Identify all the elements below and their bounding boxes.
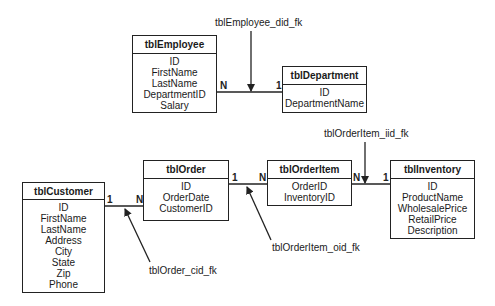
field: DepartmentName [283,98,366,109]
cardinality-emp-dept-1: 1 [276,80,282,91]
table-tblDepartment: tblDepartment ID DepartmentName [282,66,367,113]
field: ID [23,202,104,213]
field: LastName [133,78,216,89]
field: WholesalePrice [391,203,474,214]
field: CustomerID [144,203,228,214]
field: Zip [23,268,104,279]
field: ID [133,56,216,67]
field-list: ID FirstName LastName Address City State… [23,200,104,290]
field: Phone [23,279,104,290]
fk-label-orderitem-oid: tblOrderItem_oid_fk [272,242,360,253]
field-list: ID OrderDate CustomerID [144,179,228,214]
cardinality-cust-order-1: 1 [107,194,113,205]
table-tblOrderItem: tblOrderItem OrderID InventoryID [267,160,352,206]
field: Description [391,225,474,236]
table-title: tblDepartment [283,67,366,85]
cardinality-cust-order-n: N [136,194,143,205]
field: LastName [23,224,104,235]
field-list: ID FirstName LastName DepartmentID Salar… [133,54,216,111]
field-list: OrderID InventoryID [268,179,351,203]
table-tblInventory: tblInventory ID ProductName WholesalePri… [390,160,475,239]
table-tblEmployee: tblEmployee ID FirstName LastName Depart… [132,35,217,113]
table-title: tblOrderItem [268,161,351,179]
field-list: ID ProductName WholesalePrice RetailPric… [391,179,474,236]
table-title: tblCustomer [23,183,104,200]
fk-label-orderitem-iid: tblOrderItem_iid_fk [324,128,408,139]
field: Address [23,235,104,246]
table-title: tblOrder [144,161,228,179]
field: OrderDate [144,192,228,203]
field: OrderID [268,181,351,192]
cardinality-emp-dept-n: N [220,80,227,91]
field: ID [391,181,474,192]
field: ProductName [391,192,474,203]
field: FirstName [133,67,216,78]
field: Salary [133,100,216,111]
cardinality-item-inv-1: 1 [383,172,389,183]
fk-label-order-cid: tblOrder_cid_fk [149,265,217,276]
table-title: tblInventory [391,161,474,179]
field: FirstName [23,213,104,224]
field-list: ID DepartmentName [283,85,366,109]
field: City [23,246,104,257]
cardinality-order-item-n: N [259,172,266,183]
field: ID [144,181,228,192]
cardinality-item-inv-n: N [353,172,360,183]
field: InventoryID [268,192,351,203]
fk-label-employee-did: tblEmployee_did_fk [215,17,302,28]
table-tblCustomer: tblCustomer ID FirstName LastName Addres… [22,182,105,293]
cardinality-order-item-1: 1 [232,172,238,183]
table-title: tblEmployee [133,36,216,54]
field: DepartmentID [133,89,216,100]
field: State [23,257,104,268]
er-diagram: tblEmployee ID FirstName LastName Depart… [0,0,495,306]
field: ID [283,87,366,98]
table-tblOrder: tblOrder ID OrderDate CustomerID [143,160,229,221]
field: RetailPrice [391,214,474,225]
